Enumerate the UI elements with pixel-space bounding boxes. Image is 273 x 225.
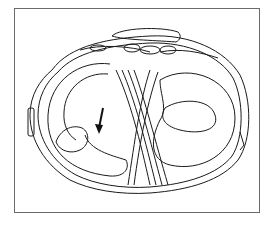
collateral-ligament-left bbox=[28, 108, 34, 136]
arrow-icon bbox=[95, 108, 103, 134]
patellar-tendon bbox=[112, 29, 180, 42]
meniscus-illustration bbox=[0, 0, 273, 225]
collateral-ligament-right bbox=[240, 132, 244, 150]
torn-flap bbox=[56, 127, 88, 152]
lateral-meniscus bbox=[153, 73, 235, 167]
medial-meniscus bbox=[48, 63, 127, 176]
